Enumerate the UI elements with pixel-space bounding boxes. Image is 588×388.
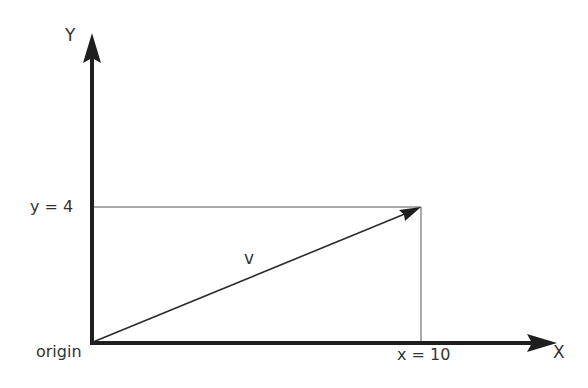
y-value-label: y = 4 <box>30 199 73 215</box>
origin-label: origin <box>36 344 82 360</box>
y-axis-label: Y <box>65 27 75 44</box>
vector-diagram <box>0 0 588 388</box>
x-axis-label: X <box>553 344 565 361</box>
vector-v-line <box>93 211 412 342</box>
x-value-label: x = 10 <box>397 347 450 363</box>
vector-v-arrowhead-icon <box>399 207 421 221</box>
vector-label: v <box>244 250 254 267</box>
